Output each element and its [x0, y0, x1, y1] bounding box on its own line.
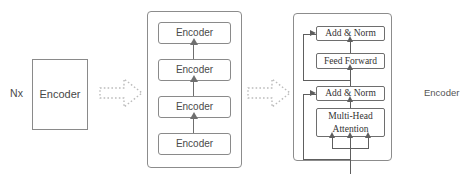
- residual-connection-upper-bottom: [303, 80, 350, 81]
- residual-connection-lower-vertical: [303, 94, 304, 159]
- left-encoder-label: Encoder: [40, 88, 81, 100]
- attention-input-arrow-query: [332, 137, 333, 148]
- encoder-stack-box-3: Encoder: [158, 133, 231, 155]
- arrow-add-norm-to-feed-forward: [350, 69, 351, 86]
- stack-arrow-up-1: [193, 81, 194, 96]
- residual-connection-lower-bottom: [303, 159, 350, 160]
- encoder-caption-label: Encoder: [424, 87, 459, 98]
- encoder-stack-label-1: Encoder: [176, 64, 213, 75]
- dotted-block-arrow-right-icon-1: [98, 76, 144, 110]
- attention-input-arrow-value: [368, 137, 369, 148]
- arrow-feed-forward-to-add-norm: [350, 41, 351, 53]
- multi-head-attention-label-line1: Multi-Head: [328, 110, 372, 122]
- stack-arrow-up-0: [193, 44, 194, 59]
- residual-connection-upper-vertical: [303, 34, 304, 81]
- encoder-stack-label-3: Encoder: [176, 138, 213, 149]
- stack-arrow-up-2: [193, 118, 194, 133]
- diagram-canvas: Nx Encoder Encoder Encoder Encoder Encod…: [0, 0, 469, 181]
- nx-multiplier-label: Nx: [10, 87, 23, 99]
- block-input-stem: [350, 148, 351, 174]
- encoder-stack-label-0: Encoder: [176, 27, 213, 38]
- dotted-block-arrow-right-icon-2: [246, 76, 292, 110]
- attention-input-arrow-key: [350, 137, 351, 148]
- arrow-attention-to-add-norm: [350, 101, 351, 108]
- left-encoder-box: Encoder: [32, 59, 88, 130]
- encoder-stack-label-2: Encoder: [176, 101, 213, 112]
